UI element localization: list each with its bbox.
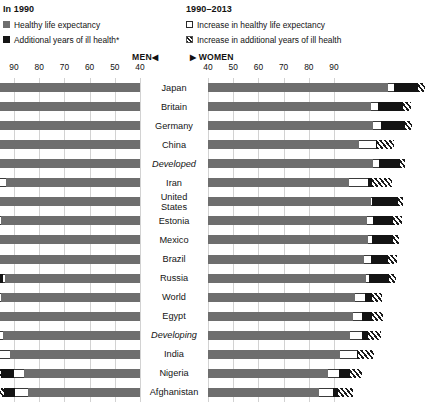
- segment-healthy: [5, 274, 140, 283]
- country-label-afghanistan: Afghanistan: [135, 387, 213, 397]
- segment-healthy: [0, 312, 140, 321]
- bar-row: Developed: [0, 154, 348, 173]
- bar-row: Estonia: [0, 211, 348, 230]
- segment-inc-ill: [389, 274, 395, 283]
- segment-inc-ill: [372, 312, 383, 321]
- segment-inc-healthy: [350, 331, 361, 340]
- segment-ill: [372, 197, 398, 206]
- segment-inc-healthy: [328, 369, 339, 378]
- segment-healthy: [1, 216, 140, 225]
- segment-ill: [379, 159, 399, 168]
- segment-healthy: [24, 369, 140, 378]
- increase-healthy-swatch: [186, 21, 193, 28]
- bar-men-afghanistan: [0, 388, 140, 397]
- segment-healthy: [3, 331, 140, 340]
- bar-men-brazil: [0, 255, 140, 264]
- country-label-japan: Japan: [135, 83, 213, 93]
- bar-men-estonia: [0, 216, 140, 225]
- bar-row: Brazil: [0, 250, 348, 269]
- country-label-russia: Russia: [135, 273, 213, 283]
- bar-men-egypt: [0, 312, 140, 321]
- segment-healthy: [10, 350, 140, 359]
- segment-inc-ill: [393, 235, 399, 244]
- tick-label-women-40: 40: [203, 62, 212, 72]
- country-label-mexico: Mexico: [135, 235, 213, 245]
- bar-row: Iran: [0, 173, 348, 192]
- bar-women-egypt: [208, 312, 383, 321]
- segment-healthy: [208, 274, 366, 283]
- legend-title-1990-2013: 1990–2013: [186, 4, 348, 15]
- bar-row: Afghanistan: [0, 383, 348, 402]
- segment-ill: [373, 216, 393, 225]
- segment-healthy: [0, 197, 140, 206]
- bar-men-united-states: [0, 197, 140, 206]
- segment-inc-healthy: [371, 102, 379, 111]
- axis-header: MEN◀ ▶ WOMEN 908070605040405060708090: [0, 52, 348, 78]
- segment-ill: [381, 121, 405, 130]
- segment-healthy: [208, 216, 367, 225]
- legend-item-increase-healthy: Increase in healthy life expectancy: [186, 19, 348, 30]
- segment-healthy: [0, 121, 140, 130]
- segment-inc-healthy: [15, 388, 28, 397]
- segment-healthy: [208, 197, 371, 206]
- segment-inc-ill: [372, 293, 382, 302]
- bar-women-developed: [208, 159, 405, 168]
- bar-women-iran: [208, 178, 392, 187]
- segment-inc-ill: [398, 197, 403, 206]
- legend-item-healthy-life-expectancy: Healthy life expectancy: [3, 19, 173, 30]
- bar-men-developed: [0, 159, 140, 168]
- legend-item-ill-health: Additional years of ill health*: [3, 34, 173, 45]
- bar-men-india: [0, 350, 140, 359]
- segment-inc-healthy: [359, 140, 375, 149]
- bar-men-britain: [0, 102, 140, 111]
- segment-ill: [378, 102, 403, 111]
- bar-row: UnitedStates: [0, 192, 348, 211]
- segment-healthy: [0, 140, 140, 149]
- segment-inc-ill: [403, 102, 411, 111]
- segment-inc-ill: [358, 350, 374, 359]
- chart-legend: In 1990 Healthy life expectancy Addition…: [0, 0, 348, 52]
- bar-men-developing: [0, 331, 140, 340]
- segment-healthy: [0, 159, 140, 168]
- country-label-britain: Britain: [135, 102, 213, 112]
- bar-women-afghanistan: [208, 388, 353, 397]
- tick-label-women-90: 90: [329, 62, 338, 72]
- segment-inc-ill: [400, 159, 405, 168]
- bar-rows: JapanBritainGermanyChinaDevelopedIranUni…: [0, 78, 348, 402]
- segment-healthy: [208, 159, 373, 168]
- bar-row: India: [0, 345, 348, 364]
- legend-label-increase-ill-health: Increase in additional years of ill heal…: [197, 35, 341, 45]
- women-axis-label: ▶ WOMEN: [190, 52, 260, 62]
- segment-ill: [362, 312, 372, 321]
- bar-row: Egypt: [0, 307, 348, 326]
- segment-healthy: [208, 331, 350, 340]
- women-axis-text: WOMEN: [199, 52, 234, 62]
- legend-column-1990: In 1990 Healthy life expectancy Addition…: [3, 4, 173, 49]
- bar-row: Britain: [0, 97, 348, 116]
- country-label-china: China: [135, 140, 213, 150]
- country-label-world: World: [135, 292, 213, 302]
- segment-inc-ill: [368, 331, 381, 340]
- bar-men-nigeria: [0, 369, 140, 378]
- segment-healthy: [208, 83, 388, 92]
- segment-inc-healthy: [373, 121, 381, 130]
- chart-plot-area: JapanBritainGermanyChinaDevelopedIranUni…: [0, 78, 348, 402]
- segment-inc-ill: [372, 178, 392, 187]
- bar-row: China: [0, 135, 348, 154]
- tick-label-men-90: 90: [9, 62, 18, 72]
- bar-row: Japan: [0, 78, 348, 97]
- segment-healthy: [6, 178, 140, 187]
- segment-inc-ill: [350, 369, 361, 378]
- segment-healthy: [208, 369, 328, 378]
- bar-women-japan: [208, 83, 425, 92]
- bar-women-india: [208, 350, 374, 359]
- country-label-india: India: [135, 349, 213, 359]
- segment-healthy: [208, 255, 364, 264]
- segment-inc-ill: [393, 216, 402, 225]
- ill-health-swatch: [3, 36, 10, 43]
- bar-women-china: [208, 140, 394, 149]
- bar-row: World: [0, 288, 348, 307]
- legend-title-1990: In 1990: [3, 4, 173, 15]
- segment-healthy: [208, 350, 340, 359]
- bar-men-china: [0, 140, 140, 149]
